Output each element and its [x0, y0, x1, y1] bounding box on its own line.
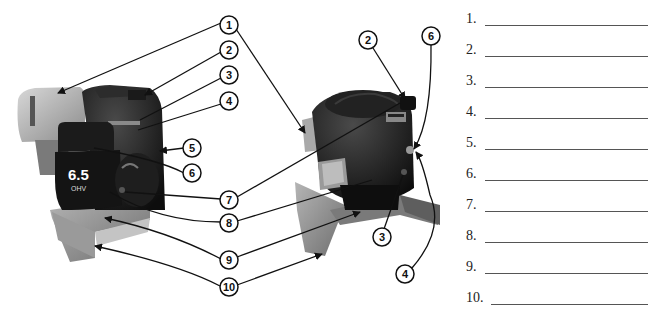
svg-text:3: 3: [226, 69, 232, 81]
left-engine: 6.5 OHV: [18, 85, 166, 262]
svg-text:6: 6: [189, 167, 195, 179]
svg-text:10: 10: [223, 281, 235, 293]
answer-row-2[interactable]: 2.: [466, 41, 656, 61]
answer-row-3[interactable]: 3.: [466, 72, 656, 92]
answer-row-9[interactable]: 9.: [466, 258, 656, 278]
right-engine: [295, 90, 440, 256]
answer-blank[interactable]: [485, 211, 648, 212]
answer-number: 8.: [466, 228, 477, 244]
svg-text:5: 5: [189, 142, 195, 154]
answer-blank[interactable]: [485, 87, 648, 88]
callout-3: 3: [220, 66, 238, 84]
callout-8: 8: [220, 214, 238, 232]
svg-text:8: 8: [226, 217, 232, 229]
answer-number: 10.: [466, 290, 484, 306]
answer-number: 6.: [466, 166, 477, 182]
engine-badge-sub: OHV: [71, 185, 87, 192]
svg-text:2: 2: [365, 34, 371, 46]
callout-2: 2: [220, 41, 238, 59]
callout-6: 6: [183, 164, 201, 182]
answer-number: 3.: [466, 73, 477, 89]
callout-3-right: 3: [373, 228, 391, 246]
answer-blank[interactable]: [485, 118, 648, 119]
callout-9: 9: [220, 251, 238, 269]
answer-row-8[interactable]: 8.: [466, 227, 656, 247]
engine-badge-main: 6.5: [68, 166, 89, 183]
answer-row-7[interactable]: 7.: [466, 196, 656, 216]
engine-diagram: 6.5 OHV: [0, 0, 455, 320]
answer-row-10[interactable]: 10.: [466, 289, 656, 309]
callout-4-right: 4: [396, 265, 414, 283]
answer-blank[interactable]: [485, 56, 648, 57]
answer-row-1[interactable]: 1.: [466, 10, 656, 30]
answer-blank[interactable]: [485, 273, 648, 274]
callout-2-right: 2: [359, 31, 377, 49]
answer-blank[interactable]: [485, 242, 648, 243]
answer-row-5[interactable]: 5.: [466, 134, 656, 154]
svg-text:6: 6: [428, 30, 434, 42]
svg-text:9: 9: [226, 254, 232, 266]
answer-number: 7.: [466, 197, 477, 213]
svg-text:3: 3: [379, 231, 385, 243]
answer-number: 2.: [466, 42, 477, 58]
answer-blank[interactable]: [491, 304, 648, 305]
svg-text:1: 1: [226, 19, 232, 31]
answer-row-4[interactable]: 4.: [466, 103, 656, 123]
callout-4: 4: [220, 92, 238, 110]
svg-text:4: 4: [402, 268, 409, 280]
callout-10: 10: [220, 278, 238, 296]
answer-row-6[interactable]: 6.: [466, 165, 656, 185]
svg-text:7: 7: [226, 194, 232, 206]
callout-1: 1: [220, 16, 238, 34]
answer-blank[interactable]: [485, 149, 648, 150]
answer-number: 5.: [466, 135, 477, 151]
callout-5: 5: [183, 139, 201, 157]
svg-text:4: 4: [226, 95, 233, 107]
answer-number: 1.: [466, 11, 477, 27]
svg-text:2: 2: [226, 44, 232, 56]
answer-blank[interactable]: [485, 180, 648, 181]
answer-number: 4.: [466, 104, 477, 120]
answer-blank[interactable]: [485, 25, 648, 26]
callout-7: 7: [220, 191, 238, 209]
answer-number: 9.: [466, 259, 477, 275]
callout-6-right: 6: [422, 27, 440, 45]
